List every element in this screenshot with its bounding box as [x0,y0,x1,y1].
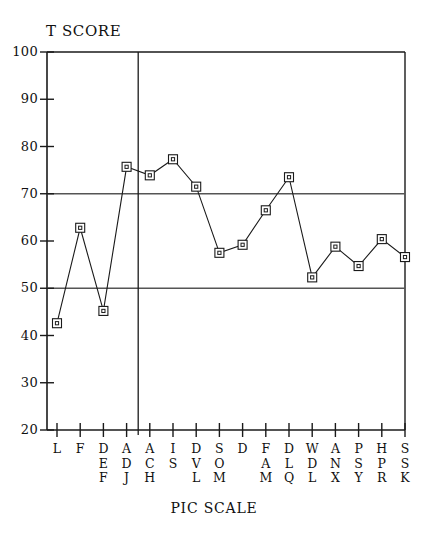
x-tick-label: L [45,442,69,457]
data-point-marker [308,273,317,282]
y-tick-label: 30 [4,375,38,390]
data-point-marker [76,223,85,232]
x-tick-letter: R [370,471,394,486]
y-tick-label: 20 [4,422,38,437]
data-point-marker [99,306,108,315]
x-axis-title: PIC SCALE [0,500,428,516]
data-point-marker [238,240,247,249]
data-point-marker [354,262,363,271]
x-tick-label: SSK [393,442,417,486]
x-tick-letter: A [115,442,139,457]
x-tick-label: HPR [370,442,394,486]
x-tick-letter: D [91,442,115,457]
x-tick-letter: P [347,442,371,457]
x-tick-letter: M [254,471,278,486]
y-tick-label: 60 [4,233,38,248]
x-tick-letter: O [207,457,231,472]
x-tick-label: WDL [300,442,324,486]
x-tick-letter: S [161,457,185,472]
x-tick-letter: F [254,442,278,457]
x-tick-label: ANX [323,442,347,486]
x-tick-letter: W [300,442,324,457]
y-tick-label: 50 [4,280,38,295]
x-tick-label: DEF [91,442,115,486]
x-tick-letter: V [184,457,208,472]
x-tick-letter: I [161,442,185,457]
x-tick-letter: E [91,457,115,472]
data-markers [53,155,410,328]
data-point-marker [285,173,294,182]
x-tick-label: F [68,442,92,457]
x-tick-label: ACH [138,442,162,486]
y-tick-label: 70 [4,186,38,201]
x-tick-label: PSY [347,442,371,486]
x-tick-letter: F [91,471,115,486]
x-tick-letter: H [370,442,394,457]
y-tick-label: 90 [4,91,38,106]
data-point-marker [122,162,131,171]
y-tick-label: 80 [4,139,38,154]
x-tick-letter: D [300,457,324,472]
x-tick-letter: Y [347,471,371,486]
x-tick-label: DLQ [277,442,301,486]
data-point-marker [261,206,270,215]
x-tick-letter: D [184,442,208,457]
x-tick-letter: A [254,457,278,472]
y-tick-label: 40 [4,328,38,343]
x-tick-letter: K [393,471,417,486]
x-tick-letter: H [138,471,162,486]
x-tick-letter: A [323,442,347,457]
data-line [57,159,405,323]
x-tick-label: IS [161,442,185,471]
data-point-marker [192,182,201,191]
x-tick-label: ADJ [115,442,139,486]
data-point-marker [331,242,340,251]
reference-lines [47,194,405,289]
x-tick-label: FAM [254,442,278,486]
x-tick-label: D [231,442,255,457]
x-tick-letter: A [138,442,162,457]
x-tick-letter: F [68,442,92,457]
x-tick-letter: X [323,471,347,486]
x-tick-letter: S [347,457,371,472]
data-point-marker [169,155,178,164]
plot-frame [47,52,405,430]
data-point-marker [401,253,410,262]
x-tick-letter: M [207,471,231,486]
x-tick-letter: L [45,442,69,457]
x-tick-letter: S [393,442,417,457]
x-tick-letter: D [231,442,255,457]
x-tick-letter: P [370,457,394,472]
x-tick-letter: N [323,457,347,472]
data-point-marker [53,319,62,328]
pic-profile-chart: T SCORE 1009080706050403020 LFDEFADJACHI… [0,0,428,542]
x-tick-letter: Q [277,471,301,486]
data-point-marker [215,248,224,257]
x-tick-letter: S [393,457,417,472]
data-point-marker [377,235,386,244]
x-tick-letter: L [184,471,208,486]
x-tick-letter: S [207,442,231,457]
x-tick-letter: L [300,471,324,486]
x-tick-letter: C [138,457,162,472]
x-tick-letter: L [277,457,301,472]
x-tick-letter: D [277,442,301,457]
x-tick-letter: D [115,457,139,472]
x-tick-letter: J [115,471,139,486]
data-point-marker [145,171,154,180]
x-tick-label: SOM [207,442,231,486]
y-tick-label: 100 [4,44,38,59]
x-tick-label: DVL [184,442,208,486]
